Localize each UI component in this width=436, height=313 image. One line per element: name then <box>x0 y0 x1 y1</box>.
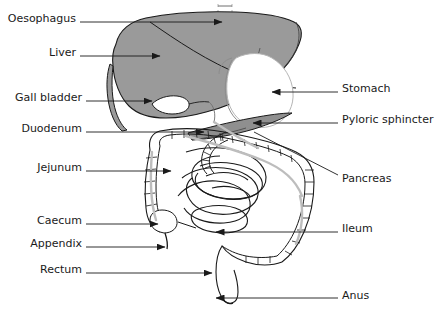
label-jejunum: Jejunum <box>0 162 82 173</box>
label-pancreas: Pancreas <box>342 173 391 184</box>
label-oesophagus: Oesophagus <box>0 13 76 24</box>
label-gall-bladder: Gall bladder <box>0 92 82 103</box>
anus-shape <box>221 296 233 304</box>
diagram-canvas: Oesophagus Liver Gall bladder Duodenum J… <box>0 0 436 313</box>
label-rectum: Rectum <box>0 264 82 275</box>
appendix-shape <box>165 233 167 249</box>
label-caecum: Caecum <box>0 215 82 226</box>
label-pyloric-sphincter: Pyloric sphincter <box>342 114 433 125</box>
label-ileum: Ileum <box>342 223 373 234</box>
label-liver: Liver <box>0 47 76 58</box>
rectum-shape <box>216 246 282 303</box>
label-stomach: Stomach <box>342 83 391 94</box>
small-intestine-shape <box>178 148 266 233</box>
label-duodenum: Duodenum <box>0 123 82 134</box>
label-appendix: Appendix <box>0 238 82 249</box>
label-anus: Anus <box>342 290 369 301</box>
